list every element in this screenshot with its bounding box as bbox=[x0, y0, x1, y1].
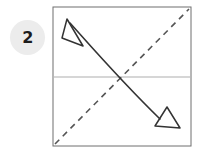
diagram-canvas: 2 bbox=[0, 0, 200, 154]
fold-figure bbox=[0, 0, 200, 154]
curved-motion-arrow-shaft bbox=[70, 23, 160, 119]
arrowhead-upper-left-icon bbox=[62, 19, 83, 46]
